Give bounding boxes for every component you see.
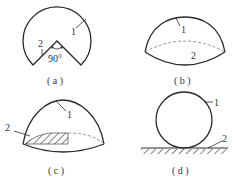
- base-back-dashed: [145, 41, 225, 52]
- caption-b: ( b ): [174, 75, 191, 87]
- diagram-figure: 1 2 90° ( a ) 1 2 ( b ) 1 2 ( c ) 1: [0, 0, 236, 182]
- leader-line-1: [56, 101, 66, 111]
- base-back-dashed: [68, 133, 104, 144]
- label-1: 1: [71, 26, 76, 37]
- label-1: 1: [181, 24, 186, 35]
- panel-c: 1 2 ( c ): [5, 100, 104, 177]
- label-2: 2: [5, 122, 10, 133]
- leader-line-1: [76, 19, 86, 28]
- sphere-outline: [156, 92, 212, 148]
- angle-arrow-left: [51, 46, 54, 49]
- hatched-contact-area: [25, 133, 68, 144]
- caption-c: ( c ): [48, 165, 64, 177]
- panel-a: 1 2 90° ( a ): [23, 7, 91, 87]
- angle-arrow-right: [60, 46, 63, 49]
- label-2: 2: [191, 50, 196, 61]
- label-2: 2: [38, 38, 43, 49]
- label-1: 1: [214, 97, 219, 108]
- caption-a: ( a ): [47, 75, 63, 87]
- base-front-curve: [23, 144, 104, 152]
- leader-line-1: [176, 18, 180, 26]
- label-2: 2: [222, 133, 227, 144]
- ground-hatching: [141, 149, 228, 154]
- angle-label: 90°: [48, 53, 62, 64]
- leader-line-2: [14, 131, 30, 136]
- panel-d: 1 2 ( d ): [141, 92, 228, 177]
- base-front-curve: [145, 52, 225, 65]
- panel-b: 1 2 ( b ): [145, 17, 225, 87]
- label-1: 1: [67, 109, 72, 120]
- caption-d: ( d ): [172, 165, 189, 177]
- leader-line-2: [208, 141, 222, 148]
